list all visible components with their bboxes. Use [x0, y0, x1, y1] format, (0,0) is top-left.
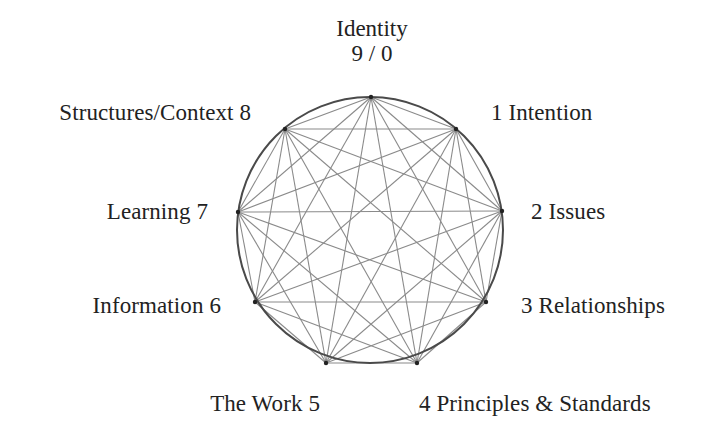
node-label-principles-standards: 4 Principles & Standards	[419, 391, 651, 417]
node-label-identity: Identity 9 / 0	[336, 16, 408, 66]
node-label-the-work: The Work 5	[210, 391, 320, 417]
identity-name: Identity	[336, 16, 408, 41]
connection-lines	[238, 97, 502, 363]
edge-2-7	[238, 211, 502, 212]
edge-2-6	[255, 211, 502, 302]
vertex-3	[484, 300, 488, 304]
edge-3-8	[285, 129, 486, 302]
node-label-information: Information 6	[93, 293, 221, 319]
vertex-0	[369, 95, 373, 99]
node-label-learning: Learning 7	[107, 199, 208, 225]
edge-0-8	[285, 97, 371, 129]
vertex-4	[415, 361, 419, 365]
vertex-1	[454, 127, 458, 131]
vertex-7	[236, 210, 240, 214]
node-label-intention: 1 Intention	[491, 100, 592, 126]
node-label-relationships: 3 Relationships	[521, 293, 665, 319]
edge-0-1	[371, 97, 456, 129]
vertex-6	[253, 300, 257, 304]
vertex-2	[500, 209, 504, 213]
edge-2-5	[326, 211, 502, 363]
vertex-5	[324, 361, 328, 365]
identity-number: 9 / 0	[336, 41, 408, 66]
edge-4-7	[238, 212, 417, 363]
vertex-8	[283, 127, 287, 131]
node-label-structures-context: Structures/Context 8	[59, 100, 251, 126]
node-label-issues: 2 Issues	[531, 199, 605, 225]
